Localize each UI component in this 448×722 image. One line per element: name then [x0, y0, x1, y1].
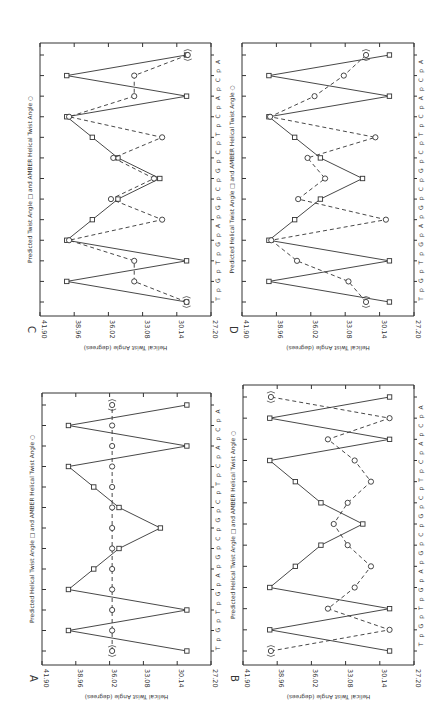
- amber-marker: [132, 94, 137, 99]
- amber-marker: [110, 423, 115, 428]
- value-tick-label: 30.14: [380, 669, 388, 688]
- axis-label: Helical Twist Angle (degrees): [85, 693, 169, 700]
- chart-title: Predicted Helical Twist Angle □ and AMBE…: [230, 431, 237, 619]
- value-tick-label: 27.20: [414, 669, 422, 688]
- sequence-label: T p G p T p G p A p G p C p G p C p T p …: [417, 58, 425, 302]
- value-tick-label: 38.96: [74, 320, 82, 339]
- bracket-mark: [267, 646, 275, 648]
- amber-marker: [110, 607, 115, 612]
- amber-marker: [110, 402, 115, 407]
- amber-marker: [363, 52, 368, 57]
- amber-marker: [110, 443, 115, 448]
- value-tick-label: 33.08: [345, 320, 353, 339]
- predicted-marker: [184, 94, 188, 98]
- amber-marker: [341, 73, 346, 78]
- amber-marker: [185, 52, 190, 57]
- chart-panel-c: 41.9038.9636.0233.0830.1427.20T p G p T …: [26, 43, 222, 351]
- axis-label: Helical Twist Angle (degrees): [287, 693, 371, 700]
- value-tick-label: 36.02: [311, 320, 319, 339]
- chart-title: Predicted Helical Twist Angle □ and AMBE…: [29, 435, 36, 623]
- predicted-marker: [387, 94, 391, 98]
- predicted-marker: [319, 501, 323, 505]
- axis-label: Helical Twist Angle (degrees): [84, 344, 168, 351]
- amber-marker: [110, 566, 115, 571]
- chart-panel-d: 41.9038.9636.0233.0830.1427.20T p G p T …: [228, 43, 425, 351]
- predicted-marker: [293, 564, 297, 568]
- amber-marker: [132, 73, 137, 78]
- amber-marker: [66, 238, 71, 243]
- amber-marker: [352, 585, 357, 590]
- sequence-label: T p G p T p G p A p G p C p G p C p T p …: [214, 408, 222, 652]
- predicted-marker: [387, 259, 391, 263]
- predicted-marker: [268, 416, 272, 420]
- predicted-marker: [268, 585, 272, 589]
- amber-marker: [312, 94, 317, 99]
- amber-marker: [151, 176, 156, 181]
- predicted-marker: [92, 485, 96, 489]
- predicted-marker: [66, 464, 70, 468]
- plot-frame: [243, 385, 414, 665]
- value-tick-label: 27.20: [211, 669, 219, 688]
- predicted-marker: [293, 479, 297, 483]
- amber-marker: [383, 217, 388, 222]
- value-tick-label: 27.20: [211, 320, 219, 339]
- amber-line: [69, 55, 188, 302]
- bracket-mark: [184, 59, 192, 61]
- plot-frame: [242, 43, 414, 316]
- sequence-label: T p G p T p G p A p G p C p G p C p T p …: [417, 404, 425, 648]
- amber-marker: [368, 479, 373, 484]
- amber-marker: [132, 258, 137, 263]
- predicted-marker: [66, 423, 70, 427]
- amber-marker: [346, 279, 351, 284]
- amber-marker: [108, 196, 113, 201]
- amber-marker: [110, 505, 115, 510]
- predicted-line: [269, 55, 390, 302]
- predicted-marker: [117, 505, 121, 509]
- amber-marker: [345, 500, 350, 505]
- amber-marker: [268, 648, 273, 653]
- bracket-mark: [184, 50, 192, 52]
- predicted-marker: [361, 522, 365, 526]
- amber-marker: [110, 464, 115, 469]
- panel-label: B: [229, 675, 240, 682]
- chart-panel-a: 41.9038.9636.0233.0830.1427.20T p G p T …: [28, 393, 222, 700]
- value-tick-label: 41.90: [42, 669, 50, 688]
- predicted-marker: [268, 458, 272, 462]
- predicted-marker: [185, 649, 189, 653]
- value-tick-label: 41.90: [243, 669, 251, 688]
- value-tick-label: 33.08: [143, 669, 151, 688]
- amber-marker: [111, 155, 116, 160]
- predicted-marker: [65, 279, 69, 283]
- bracket-mark: [183, 297, 191, 299]
- predicted-marker: [267, 73, 271, 77]
- amber-marker: [132, 279, 137, 284]
- panel-label: C: [26, 326, 37, 333]
- value-tick-label: 36.02: [311, 669, 319, 688]
- amber-marker: [387, 416, 392, 421]
- predicted-marker: [387, 53, 391, 57]
- amber-marker: [325, 606, 330, 611]
- plot-frame: [40, 43, 211, 316]
- predicted-marker: [292, 135, 296, 139]
- value-tick-label: 41.90: [242, 320, 250, 339]
- amber-marker: [267, 114, 272, 119]
- panel-label: A: [28, 675, 39, 682]
- predicted-marker: [292, 217, 296, 221]
- value-tick-label: 38.96: [277, 669, 285, 688]
- predicted-marker: [90, 217, 94, 221]
- amber-marker: [66, 114, 71, 119]
- bracket-mark: [267, 655, 275, 657]
- amber-marker: [110, 587, 115, 592]
- amber-marker: [184, 299, 189, 304]
- predicted-marker: [319, 543, 323, 547]
- sequence-label: T p G p T p G p A p G p C p G p C p T p …: [214, 58, 222, 302]
- value-tick-label: 36.02: [108, 320, 116, 339]
- predicted-marker: [387, 606, 391, 610]
- value-tick-label: 27.20: [414, 320, 422, 339]
- amber-marker: [373, 135, 378, 140]
- amber-marker: [110, 525, 115, 530]
- predicted-marker: [267, 279, 271, 283]
- predicted-marker: [117, 546, 121, 550]
- predicted-marker: [387, 395, 391, 399]
- amber-marker: [296, 196, 301, 201]
